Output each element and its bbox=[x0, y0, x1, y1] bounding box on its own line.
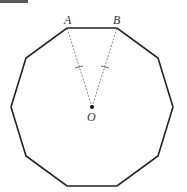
center-point bbox=[90, 105, 94, 109]
label-o: O bbox=[87, 110, 96, 124]
label-b: B bbox=[113, 13, 121, 27]
radius-ob bbox=[92, 28, 117, 107]
label-a: A bbox=[63, 13, 72, 27]
radius-oa bbox=[67, 28, 92, 107]
decagon-diagram: A B O bbox=[0, 0, 187, 192]
